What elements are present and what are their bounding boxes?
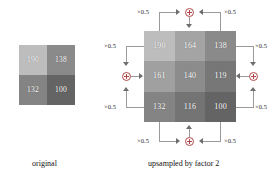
output-line-right <box>240 76 249 77</box>
arrowhead-icon <box>186 125 192 129</box>
pixel-cell: 190 <box>144 31 175 61</box>
pixel-value: 132 <box>27 86 39 94</box>
weight-label-bottom-right: ×0.5 <box>224 137 236 144</box>
pixel-value: 190 <box>27 56 39 64</box>
pixel-cell: 100 <box>205 92 236 122</box>
pixel-cell: 119 <box>205 61 236 91</box>
leader-line-top-left <box>159 12 160 31</box>
pixel-cell: 132 <box>144 92 175 122</box>
pixel-value: 164 <box>184 42 197 50</box>
pixel-value: 138 <box>214 42 227 50</box>
arrowhead-icon <box>123 87 129 91</box>
arrowhead-icon <box>199 9 203 15</box>
arrowhead-icon <box>123 62 129 66</box>
feed-line-bottom-right <box>203 141 221 142</box>
caption-original: original <box>32 159 57 168</box>
feed-line-bottom-left <box>159 141 177 142</box>
pixel-cell: 116 <box>175 92 206 122</box>
figure-canvas: 190 138 132 100 190 164 138 161 140 119 <box>0 0 275 182</box>
pixel-value: 132 <box>153 103 166 111</box>
pixel-cell: 190 <box>19 45 47 75</box>
leader-line-left-top <box>126 46 144 47</box>
arrowhead-icon <box>186 24 192 28</box>
arrowhead-icon <box>250 62 256 66</box>
leader-line-right-bottom <box>236 107 254 108</box>
feed-line-top-right <box>203 12 221 13</box>
arrowhead-icon <box>176 138 180 144</box>
leader-line-bottom-right <box>220 122 221 141</box>
sum-operator-node <box>122 72 131 81</box>
weight-label-top-left: ×0.5 <box>137 8 149 15</box>
feed-line-top-left <box>159 12 177 13</box>
leader-line-bottom-left <box>159 122 160 141</box>
pixel-value: 190 <box>153 42 166 50</box>
feed-line-right-bottom <box>253 89 254 107</box>
weight-label-bottom-left: ×0.5 <box>137 137 149 144</box>
pixel-value: 119 <box>215 72 227 80</box>
weight-label-left-top: ×0.5 <box>104 42 116 49</box>
weight-label-left-bottom: ×0.5 <box>104 103 116 110</box>
original-pixel-grid: 190 138 132 100 <box>19 45 75 105</box>
feed-line-left-bottom <box>126 89 127 107</box>
pixel-cell: 100 <box>47 75 75 105</box>
pixel-cell: 164 <box>175 31 206 61</box>
upsampled-pixel-grid: 190 164 138 161 140 119 132 116 100 <box>144 31 236 122</box>
arrowhead-icon <box>176 9 180 15</box>
output-line-bottom <box>189 128 190 137</box>
caption-upsampled: upsampled by factor 2 <box>148 159 219 168</box>
weight-label-top-right: ×0.5 <box>224 8 236 15</box>
pixel-cell: 138 <box>47 45 75 75</box>
arrowhead-icon <box>250 87 256 91</box>
leader-line-left-bottom <box>126 107 144 108</box>
pixel-value: 161 <box>153 72 166 80</box>
arrowhead-icon <box>236 73 240 79</box>
sum-operator-node <box>185 137 194 146</box>
pixel-cell: 132 <box>19 75 47 105</box>
pixel-value: 116 <box>184 103 196 111</box>
pixel-cell: 140 <box>175 61 206 91</box>
pixel-value: 100 <box>55 86 67 94</box>
pixel-value: 140 <box>184 72 197 80</box>
weight-label-right-bottom: ×0.5 <box>255 103 267 110</box>
weight-label-right-top: ×0.5 <box>255 42 267 49</box>
pixel-cell: 161 <box>144 61 175 91</box>
pixel-cell: 138 <box>205 31 236 61</box>
arrowhead-icon <box>139 73 143 79</box>
leader-line-top-right <box>220 12 221 31</box>
sum-operator-node <box>249 72 258 81</box>
arrowhead-icon <box>199 138 203 144</box>
pixel-value: 138 <box>55 56 67 64</box>
leader-line-right-top <box>236 46 254 47</box>
pixel-value: 100 <box>214 103 227 111</box>
sum-operator-node <box>185 8 194 17</box>
